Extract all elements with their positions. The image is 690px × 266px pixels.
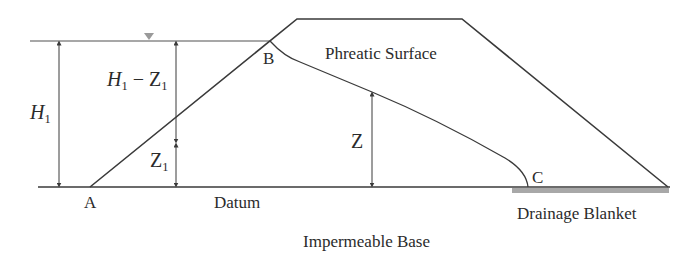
h1-subscript: 1 <box>44 112 50 126</box>
h1-label: H1 <box>30 102 51 125</box>
h1-symbol: H <box>30 101 44 123</box>
z1-symbol: Z <box>150 149 162 171</box>
drainage-blanket-label: Drainage Blanket <box>517 205 636 222</box>
impermeable-base-label: Impermeable Base <box>303 233 430 250</box>
point-a-label: A <box>84 194 96 211</box>
minus-sign: − <box>128 68 149 90</box>
h1-minus-z1-z-subscript: 1 <box>161 79 167 93</box>
point-b-label: B <box>263 50 274 67</box>
z1-label: Z1 <box>150 150 168 173</box>
datum-label: Datum <box>214 194 260 211</box>
phreatic-surface-label: Phreatic Surface <box>325 45 437 62</box>
seepage-diagram <box>0 0 690 266</box>
water-level-triangle-icon <box>144 33 154 40</box>
h1-minus-z1-label: H1 − Z1 <box>107 69 167 92</box>
z1-subscript: 1 <box>162 160 168 174</box>
point-c-label: C <box>532 169 543 186</box>
h1-minus-z1-z-symbol: Z <box>149 68 161 90</box>
h1-minus-z1-h-symbol: H <box>107 68 121 90</box>
z-label: Z <box>351 131 363 151</box>
drainage-blanket <box>512 188 669 193</box>
